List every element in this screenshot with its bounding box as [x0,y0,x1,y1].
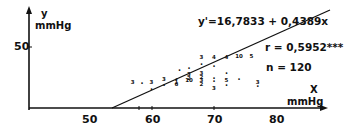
data-point: 6 [175,81,179,87]
data-point: 3 [212,85,216,91]
x-tick-label-70: 70 [207,114,222,125]
data-point: . [237,73,240,82]
data-point: 5 [250,53,254,59]
x-tick-label-50: 50 [82,114,97,125]
y-axis-label: y [41,9,48,19]
data-point: . [200,58,203,67]
data-point: . [225,67,228,76]
data-point: . [187,62,190,71]
data-point: . [225,79,228,88]
correlation-r: r = 0,5952*** [265,42,343,53]
sample-size-n: n = 120 [266,62,312,73]
data-point: . [212,60,215,69]
y-axis-arrow-icon [26,6,32,14]
data-point: . [141,77,144,86]
data-point: 10 [185,77,193,83]
data-point: 4 [225,54,229,60]
data-point: . [178,64,181,73]
data-points: 3.33..16.3210.33232.4...4.5.10.53..3 [131,53,260,92]
y-tick-label-50: 50 [14,41,29,52]
data-point: . [256,80,259,89]
data-point: 2 [200,81,204,87]
x-axis-label: X [310,85,318,95]
x-axis-unit: mmHg [287,97,323,107]
y-axis-unit: mmHg [35,21,71,31]
x-tick-label-60: 60 [145,114,160,125]
regression-equation: y'=16,7833 + 0,4389x [198,16,328,27]
data-point: 10 [235,53,243,59]
data-point: . [150,83,153,92]
x-tick-label-80: 80 [269,114,284,125]
data-point: 3 [131,79,135,85]
data-point: . [212,75,215,84]
data-point: . [162,79,165,88]
